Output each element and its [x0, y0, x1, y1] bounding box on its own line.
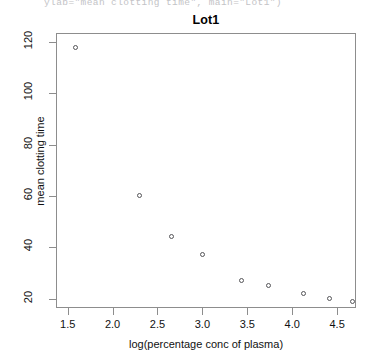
x-axis-label: log(percentage conc of plasma): [56, 338, 356, 350]
y-axis-tick: [49, 93, 56, 94]
plot-figure: Lot1 20406080100120 1.52.02.53.03.54.04.…: [0, 0, 379, 362]
scatter-point: [327, 296, 332, 301]
y-axis-tick: [49, 299, 56, 300]
x-axis-tick: [337, 308, 338, 315]
x-axis-tick: [202, 308, 203, 315]
x-axis-tick: [157, 308, 158, 315]
scatter-point: [239, 278, 244, 283]
scatter-point: [266, 283, 271, 288]
x-axis-tick: [113, 308, 114, 315]
x-axis-tick-label: 4.0: [272, 318, 312, 330]
x-axis-tick-label: 2.5: [137, 318, 177, 330]
y-axis-tick: [49, 145, 56, 146]
y-axis-label: mean clotting time: [34, 61, 46, 261]
x-axis-tick-label: 4.5: [317, 318, 357, 330]
scatter-point: [137, 193, 142, 198]
x-axis-tick: [292, 308, 293, 315]
x-axis-tick: [68, 308, 69, 315]
x-axis-tick-label: 2.0: [93, 318, 133, 330]
scatter-point: [169, 234, 174, 239]
y-axis-tick-label: 120: [22, 20, 34, 60]
x-axis-tick-label: 3.0: [182, 318, 222, 330]
x-axis-tick-label: 1.5: [48, 318, 88, 330]
scatter-point: [301, 291, 306, 296]
scatter-point: [73, 45, 78, 50]
x-axis-tick: [247, 308, 248, 315]
y-axis-tick: [49, 247, 56, 248]
plot-title: Lot1: [56, 13, 356, 27]
scatter-point: [350, 299, 355, 304]
plot-data-area: [56, 33, 356, 308]
y-axis-tick: [49, 196, 56, 197]
y-axis-tick-label: 100: [22, 71, 34, 111]
scatter-point: [200, 252, 205, 257]
y-axis-tick: [49, 42, 56, 43]
y-axis-tick-label: 40: [22, 225, 34, 265]
y-axis-tick-label: 60: [22, 174, 34, 214]
x-axis-tick-label: 3.5: [227, 318, 267, 330]
y-axis-tick-label: 20: [22, 277, 34, 317]
y-axis-tick-label: 80: [22, 123, 34, 163]
